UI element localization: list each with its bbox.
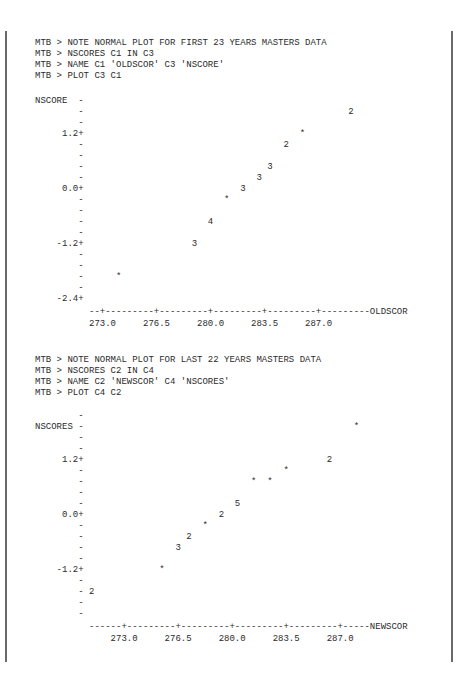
x-axis-labels: 273.0 276.5 280.0 283.5 287.0 [35,634,354,645]
plot-row: - * [35,195,229,206]
plot-row: NSCORE - [35,96,84,107]
plot-row: - 2 [35,532,192,543]
plot-row: - [35,206,84,217]
plot-row: - * [35,466,289,477]
plot-row: - [35,488,84,499]
command-line: MTB > PLOT C4 C2 [35,388,121,399]
command-line: MTB > NAME C1 'OLDSCOR' C3 'NSCORE' [35,60,224,71]
plot-row: - 3 [35,162,273,173]
plot-row: - [35,609,84,620]
plot-row: - * [35,521,208,532]
plot-row: - [35,228,84,239]
plot-row: - 2 [35,140,289,151]
plot-row: - [35,433,84,444]
x-axis-line: ------+---------+---------+---------+---… [35,622,408,633]
plot-row: - * [35,272,121,283]
plot-row: 1.2+ 2 [35,455,332,466]
command-line: MTB > PLOT C3 C1 [35,71,121,82]
plot-row: - [35,118,84,129]
plot-row: - * * [35,477,273,488]
page-right-border [451,31,453,662]
plot-row: - [35,444,84,455]
plot-row: - [35,250,84,261]
plot-row: - 2 [35,587,94,598]
minitab-session-output: MTB > NOTE NORMAL PLOT FOR FIRST 23 YEAR… [35,0,445,690]
plot-row: -1.2+ * [35,565,165,576]
plot-row: - [35,411,84,422]
plot-row: - [35,598,84,609]
page-left-border [5,31,7,662]
plot-row: 1.2+ * [35,129,305,140]
plot-row: - [35,576,84,587]
plot-row: - 3 [35,173,262,184]
plot-row: NSCORES - * [35,422,359,433]
plot-row: - [35,554,84,565]
command-line: MTB > NOTE NORMAL PLOT FOR LAST 22 YEARS… [35,355,321,366]
plot-row: - 5 [35,499,240,510]
plot-row: - 2 [35,107,354,118]
plot-row: - 4 [35,217,213,228]
plot-row: -2.4+ [35,294,84,305]
plot-row: 0.0+ 2 [35,510,224,521]
command-line: MTB > NOTE NORMAL PLOT FOR FIRST 23 YEAR… [35,38,327,49]
x-axis-line: --+---------+---------+---------+-------… [35,307,408,318]
x-axis-labels: 273.0 276.5 280.0 283.5 287.0 [35,319,332,330]
plot-row: - [35,151,84,162]
plot-row: - 3 [35,543,181,554]
plot-row: -1.2+ 3 [35,239,197,250]
command-line: MTB > NAME C2 'NEWSCOR' C4 'NSCORES' [35,377,229,388]
plot-row: - [35,283,84,294]
plot-row: 0.0+ 3 [35,184,246,195]
plot-row: - [35,261,84,272]
command-line: MTB > NSCORES C1 IN C3 [35,49,154,60]
command-line: MTB > NSCORES C2 IN C4 [35,366,154,377]
